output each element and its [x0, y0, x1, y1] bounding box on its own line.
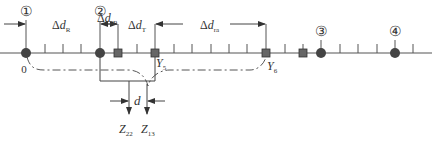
station-3-label: ③ [315, 24, 328, 39]
dim-label-dra: Δdra [200, 18, 220, 34]
dim-label-dR: ΔdR [52, 18, 71, 34]
dim-label-dT: ΔdT [128, 18, 147, 34]
output-label-z22: Z22 [119, 122, 133, 138]
trajectory-curve [27, 57, 266, 86]
station-3-marker [316, 48, 326, 58]
origin-label: 0 [21, 63, 27, 75]
output-label-z13: Z13 [141, 122, 155, 138]
offset-label-d: d [134, 93, 141, 108]
track-diagram: ① ② ③ ④ 0 ΔdR ΔdIR ΔdT Δdra Y5 Y6 d Z22 … [0, 0, 439, 148]
station-1-label: ① [20, 4, 33, 19]
dim-label-dIR: ΔdIR [97, 11, 118, 27]
station-1-marker [21, 48, 31, 58]
point-label-y5: Y5 [156, 56, 167, 72]
station-4-label: ④ [389, 24, 402, 39]
station-4-marker [390, 48, 400, 58]
station-2-marker [95, 48, 105, 58]
point-label-y6: Y6 [267, 59, 278, 75]
